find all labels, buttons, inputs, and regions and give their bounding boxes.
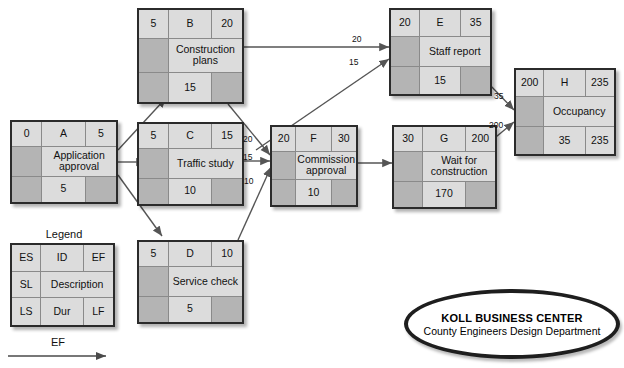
activity-node-a[interactable]: 0 A 5 Application approval 5 bbox=[10, 120, 118, 204]
node-g-ls bbox=[394, 182, 423, 207]
node-g-id: G bbox=[423, 127, 465, 152]
node-d-dur: 5 bbox=[169, 297, 212, 322]
node-h-ls bbox=[516, 127, 544, 154]
title-block: KOLL BUSINESS CENTER County Engineers De… bbox=[404, 289, 620, 359]
edge-label-b-f: 20 bbox=[243, 134, 252, 144]
node-c-dur: 10 bbox=[169, 179, 212, 204]
node-h-ef: 235 bbox=[586, 70, 614, 97]
node-d-sl bbox=[139, 267, 169, 296]
activity-node-h[interactable]: 200 H 235 Occupancy 35 235 bbox=[514, 68, 616, 156]
node-f-dur: 10 bbox=[296, 180, 331, 205]
legend-cell-dur: Dur bbox=[41, 298, 83, 325]
node-e-ls bbox=[391, 67, 420, 94]
legend-cell-id: ID bbox=[41, 245, 83, 272]
node-g-lf bbox=[466, 182, 495, 207]
node-c-id: C bbox=[169, 124, 212, 149]
activity-node-e[interactable]: 20 E 35 Staff report 15 bbox=[389, 8, 492, 96]
activity-node-f[interactable]: 20 F 30 Commission approval 10 bbox=[270, 125, 358, 207]
legend-cell-es: ES bbox=[12, 245, 41, 272]
node-b-sl bbox=[139, 39, 169, 73]
node-c-es: 5 bbox=[139, 124, 169, 149]
node-b-lf bbox=[212, 73, 242, 102]
edge-label-b-e: 20 bbox=[352, 34, 361, 44]
title-block-line-1: KOLL BUSINESS CENTER bbox=[441, 312, 582, 324]
activity-node-g[interactable]: 30 G 200 Wait for construction 170 bbox=[392, 125, 497, 209]
node-e-id: E bbox=[420, 10, 462, 37]
node-b-ef: 20 bbox=[212, 10, 242, 39]
node-b-id: B bbox=[169, 10, 212, 39]
node-g-sl bbox=[394, 152, 423, 181]
node-h-es: 200 bbox=[516, 70, 544, 97]
activity-node-b[interactable]: 5 B 20 Construction plans 15 bbox=[137, 8, 244, 104]
legend-cell-sl: SL bbox=[12, 272, 41, 299]
node-e-description: Staff report bbox=[420, 37, 490, 68]
legend-cell-lf: LF bbox=[84, 298, 113, 325]
node-c-description: Traffic study bbox=[169, 149, 242, 178]
node-a-id: A bbox=[42, 122, 86, 147]
edge-label-g-h: 200 bbox=[489, 120, 503, 130]
node-a-dur: 5 bbox=[42, 177, 86, 202]
node-d-es: 5 bbox=[139, 242, 169, 267]
legend-cell-ls: LS bbox=[12, 298, 41, 325]
node-g-ef: 200 bbox=[466, 127, 495, 152]
node-b-es: 5 bbox=[139, 10, 169, 39]
node-a-lf bbox=[86, 177, 116, 202]
node-c-lf bbox=[212, 179, 242, 204]
node-h-id: H bbox=[544, 70, 585, 97]
legend-grid: ES ID EF SL Description LS Dur LF bbox=[10, 243, 115, 327]
legend-cell-ef: EF bbox=[84, 245, 113, 272]
edge-label-c-f: 15 bbox=[243, 152, 252, 162]
legend: Legend ES ID EF SL Description LS Dur LF bbox=[10, 228, 118, 327]
node-d-id: D bbox=[169, 242, 212, 267]
node-e-ef: 35 bbox=[461, 10, 490, 37]
node-c-sl bbox=[139, 149, 169, 178]
node-e-dur: 15 bbox=[420, 67, 462, 94]
node-d-lf bbox=[212, 297, 242, 322]
node-f-ef: 30 bbox=[332, 127, 356, 152]
node-h-description: Occupancy bbox=[544, 97, 614, 128]
node-a-ef: 5 bbox=[86, 122, 116, 147]
node-a-ls bbox=[12, 177, 42, 202]
node-f-description: Commission approval bbox=[296, 152, 356, 180]
node-a-description: Application approval bbox=[42, 147, 116, 176]
node-a-sl bbox=[12, 147, 42, 176]
legend-cell-description: Description bbox=[41, 272, 113, 299]
node-h-dur: 35 bbox=[544, 127, 585, 154]
edge-label-c-e: 15 bbox=[349, 57, 358, 67]
edge-label-d-f: 10 bbox=[244, 176, 253, 186]
activity-node-c[interactable]: 5 C 15 Traffic study 10 bbox=[137, 122, 244, 206]
node-g-description: Wait for construction bbox=[423, 152, 495, 181]
node-b-description: Construction plans bbox=[169, 39, 242, 73]
title-block-line-2: County Engineers Design Department bbox=[424, 325, 601, 337]
node-d-ls bbox=[139, 297, 169, 322]
node-d-ef: 10 bbox=[212, 242, 242, 267]
node-b-ls bbox=[139, 73, 169, 102]
node-g-es: 30 bbox=[394, 127, 423, 152]
node-h-sl bbox=[516, 97, 544, 128]
edge-label-e-h: 35 bbox=[494, 91, 503, 101]
activity-node-d[interactable]: 5 D 10 Service check 5 bbox=[137, 240, 244, 324]
node-c-ls bbox=[139, 179, 169, 204]
node-g-dur: 170 bbox=[423, 182, 465, 207]
node-e-sl bbox=[391, 37, 420, 68]
node-f-lf bbox=[332, 180, 356, 205]
node-f-sl bbox=[272, 152, 296, 180]
node-f-ls bbox=[272, 180, 296, 205]
node-f-es: 20 bbox=[272, 127, 296, 152]
network-diagram-canvas: 20 15 20 15 10 35 200 0 A 5 Application … bbox=[0, 0, 624, 368]
legend-title: Legend bbox=[10, 228, 118, 240]
node-b-dur: 15 bbox=[169, 73, 212, 102]
node-d-description: Service check bbox=[169, 267, 242, 296]
node-e-lf bbox=[461, 67, 490, 94]
node-a-es: 0 bbox=[12, 122, 42, 147]
node-c-ef: 15 bbox=[212, 124, 242, 149]
ef-scale: EF bbox=[8, 336, 108, 348]
node-e-es: 20 bbox=[391, 10, 420, 37]
ef-scale-label: EF bbox=[8, 336, 108, 348]
node-f-id: F bbox=[296, 127, 331, 152]
node-h-lf: 235 bbox=[586, 127, 614, 154]
